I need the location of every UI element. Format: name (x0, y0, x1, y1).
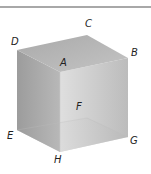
vertex-label-c: C (85, 18, 92, 29)
vertex-label-h: H (54, 154, 62, 165)
vertex-label-g: G (130, 135, 138, 146)
vertex-label-b: B (131, 47, 138, 58)
vertex-label-e: E (7, 130, 14, 141)
cube-diagram: C D B A F E G H (0, 0, 151, 174)
vertex-label-d: D (11, 36, 19, 47)
vertex-label-f: F (76, 101, 82, 112)
cube-right-face (60, 58, 128, 152)
vertex-label-a: A (59, 57, 67, 68)
